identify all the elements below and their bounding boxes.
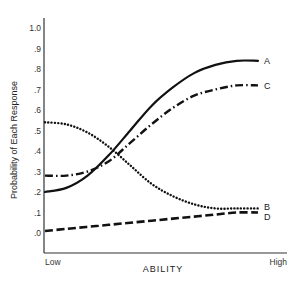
series-labels: ABCD [264, 56, 271, 222]
series-label-c: C [264, 81, 271, 91]
series-label-a: A [264, 56, 270, 66]
x-tick-low: Low [45, 257, 61, 267]
x-axis-label: ABILITY [143, 264, 184, 274]
y-tick-labels: .0.1.2.3.4.5.6.7.8.91.0 [29, 23, 41, 238]
x-tick-high: High [270, 257, 288, 267]
series-line-a [45, 60, 258, 192]
y-tick-label: .2 [34, 187, 41, 197]
y-tick-label: .8 [34, 64, 41, 74]
y-tick-label: .3 [34, 167, 41, 177]
y-tick-label: 1.0 [29, 23, 41, 33]
y-tick-label: .1 [34, 208, 41, 218]
y-tick-label: .9 [34, 44, 41, 54]
series-lines [45, 60, 258, 230]
item-response-chart: Probability of Each Response .0.1.2.3.4.… [0, 0, 307, 292]
y-tick-label: .7 [34, 85, 41, 95]
series-line-c [45, 85, 258, 176]
series-label-d: D [264, 212, 271, 222]
series-line-b [45, 122, 258, 208]
y-tick-label: .6 [34, 105, 41, 115]
y-tick-label: .4 [34, 146, 41, 156]
y-tick-label: .5 [34, 126, 41, 136]
y-axis-label: Probability of Each Response [9, 81, 19, 199]
y-tick-label: .0 [34, 228, 41, 238]
series-line-d [45, 212, 258, 231]
